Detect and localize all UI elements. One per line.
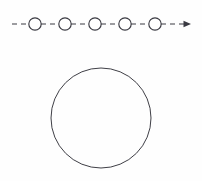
chain-node-4	[119, 18, 131, 30]
chain-node-2	[59, 18, 71, 30]
diagram-canvas	[0, 0, 202, 181]
large-circle	[51, 68, 151, 168]
chain-node-1	[29, 18, 41, 30]
chain-node-5	[149, 18, 161, 30]
diagram-svg	[0, 0, 202, 181]
dashed-chain-group	[12, 18, 191, 30]
chain-node-3	[89, 18, 101, 30]
chain-arrowhead-icon	[184, 21, 192, 27]
